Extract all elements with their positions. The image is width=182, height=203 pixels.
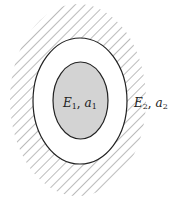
inclusion-diagram: E1, a1 E2, a2 bbox=[0, 0, 182, 203]
inner-region-label: E1, a1 bbox=[62, 96, 97, 111]
outer-region-label: E2, a2 bbox=[133, 96, 168, 111]
